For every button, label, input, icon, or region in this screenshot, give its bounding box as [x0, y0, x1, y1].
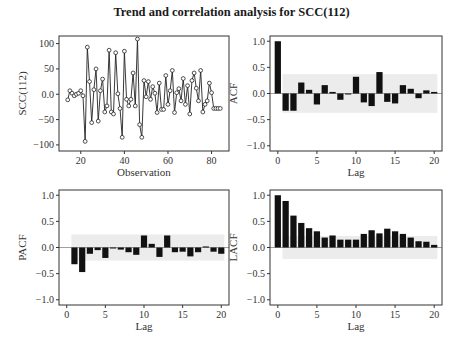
data-point [127, 104, 131, 108]
data-point [133, 104, 137, 108]
bar [195, 248, 201, 253]
bar [337, 240, 343, 248]
data-point [118, 107, 122, 111]
data-point [66, 98, 70, 102]
data-point [203, 102, 207, 106]
data-point [96, 119, 100, 123]
y-tick-label: −0.5 [247, 268, 265, 279]
y-tick-label: −1.0 [247, 294, 265, 305]
bar [384, 229, 390, 248]
y-axis-label: PACF [16, 234, 28, 261]
data-point [81, 94, 85, 98]
data-point [179, 99, 183, 103]
y-tick-label: 0.0 [42, 242, 55, 253]
data-point [199, 69, 203, 73]
bar [172, 248, 178, 253]
bar [306, 90, 312, 94]
bar [180, 248, 186, 252]
bar [353, 77, 359, 94]
y-axis-label: SCC(112) [16, 71, 29, 116]
data-point [125, 97, 129, 101]
data-point [188, 112, 192, 116]
bar [314, 231, 320, 247]
data-point [218, 107, 222, 111]
x-tick-label: 60 [163, 155, 173, 166]
data-point [107, 48, 111, 52]
data-point [149, 97, 153, 101]
bar [400, 85, 406, 93]
data-point [116, 92, 120, 96]
y-tick-label: 0.5 [253, 62, 266, 73]
panel-acf: −1.0−0.50.00.51.005101520LagACF [227, 36, 442, 178]
x-tick-label: 20 [429, 155, 439, 166]
data-point [207, 81, 211, 85]
x-tick-label: 20 [216, 309, 226, 320]
data-point [146, 80, 150, 84]
data-point [205, 99, 209, 103]
bar [369, 230, 375, 247]
bar [283, 201, 289, 248]
bar [369, 94, 375, 107]
data-point [90, 121, 94, 125]
data-point [153, 91, 157, 95]
bar [431, 92, 437, 94]
bar [329, 235, 335, 247]
bar [290, 94, 296, 111]
figure-canvas: −100−500.05010020406080ObservationSCC(11… [0, 0, 463, 351]
bar [95, 248, 101, 251]
data-point [140, 135, 144, 139]
x-tick-label: 5 [103, 309, 108, 320]
data-point [175, 91, 179, 95]
x-tick-label: 15 [390, 309, 400, 320]
data-point [166, 102, 170, 106]
data-point [210, 91, 214, 95]
data-point [105, 104, 109, 108]
y-tick-label: 0.0 [42, 89, 55, 100]
bar [408, 238, 414, 248]
data-point [170, 69, 174, 73]
series-line [68, 39, 221, 141]
bar [87, 248, 93, 254]
bar [361, 234, 367, 248]
data-point [94, 67, 98, 71]
y-tick-label: 1.0 [253, 36, 266, 47]
data-point [181, 77, 185, 81]
data-point [101, 77, 105, 81]
data-point [194, 86, 198, 90]
data-point [83, 139, 87, 143]
data-point [168, 89, 172, 93]
y-tick-label: −100 [33, 139, 54, 150]
x-tick-label: 20 [429, 309, 439, 320]
bar [415, 241, 421, 247]
x-axis-label: Lag [347, 166, 365, 178]
x-axis-label: Lag [135, 320, 153, 332]
data-point [79, 89, 83, 93]
bar [345, 240, 351, 248]
data-point [162, 108, 166, 112]
data-point [88, 80, 92, 84]
x-tick-label: 10 [139, 309, 149, 320]
data-point [197, 99, 201, 103]
data-point [129, 97, 133, 101]
y-axis-label: ACF [227, 83, 239, 104]
x-tick-label: 0 [275, 309, 280, 320]
bar [353, 240, 359, 248]
bar [392, 94, 398, 104]
data-point [85, 45, 89, 49]
data-point [177, 87, 181, 91]
y-tick-label: −50 [38, 114, 54, 125]
bar [298, 83, 304, 94]
y-tick-label: −0.5 [36, 268, 54, 279]
bar [408, 89, 414, 94]
y-tick-label: 0.5 [253, 216, 266, 227]
data-point [192, 71, 196, 75]
bar [71, 248, 77, 265]
bar [141, 235, 147, 247]
x-axis-label: Lag [347, 320, 365, 332]
data-point [157, 81, 161, 85]
bar [345, 94, 351, 95]
data-point [120, 135, 124, 139]
bar [187, 248, 193, 257]
panel-lacf: −1.0−0.50.00.51.005101520LagLACF [227, 190, 442, 332]
bar [298, 223, 304, 248]
